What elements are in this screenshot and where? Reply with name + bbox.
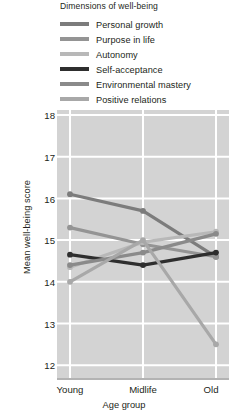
data-point-environmental-mastery-young (67, 262, 73, 268)
y-axis-title: Mean well-being score (22, 152, 32, 302)
line-chart-svg (0, 0, 248, 420)
x-axis-title: Age group (0, 400, 248, 410)
data-point-self-acceptance-young (67, 252, 73, 258)
chart-plot-area: Mean well-being score Age group 18 17 16… (0, 0, 248, 420)
y-tick-label-13: 13 (35, 319, 55, 330)
y-tick-label-12: 12 (35, 360, 55, 371)
data-point-environmental-mastery-midlife (140, 250, 146, 256)
data-point-self-acceptance-midlife (140, 262, 146, 268)
x-tick-label-old: Old (186, 384, 236, 395)
data-point-positive-relations-young (67, 279, 73, 285)
data-point-self-acceptance-old (213, 250, 219, 256)
x-tick-label-young: Young (40, 384, 100, 395)
y-tick-label-14: 14 (35, 277, 55, 288)
y-tick-label-18: 18 (35, 110, 55, 121)
data-point-environmental-mastery-old (213, 231, 219, 237)
data-point-personal-growth-young (67, 191, 73, 197)
data-point-positive-relations-midlife (140, 237, 146, 243)
x-tick-label-midlife: Midlife (113, 384, 173, 395)
data-point-purpose-in-life-young (67, 225, 73, 231)
y-tick-label-16: 16 (35, 194, 55, 205)
data-point-positive-relations-old (213, 341, 219, 347)
y-tick-label-17: 17 (35, 152, 55, 163)
y-tick-label-15: 15 (35, 235, 55, 246)
data-point-personal-growth-midlife (140, 208, 146, 214)
